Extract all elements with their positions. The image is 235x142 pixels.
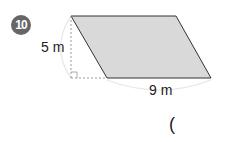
base-label: 9 m (149, 82, 172, 98)
parallelogram-diagram (0, 0, 235, 142)
parallelogram-shape (71, 16, 211, 78)
height-label: 5 m (41, 39, 64, 55)
answer-paren: ( (169, 114, 175, 135)
right-angle-icon (71, 72, 77, 78)
